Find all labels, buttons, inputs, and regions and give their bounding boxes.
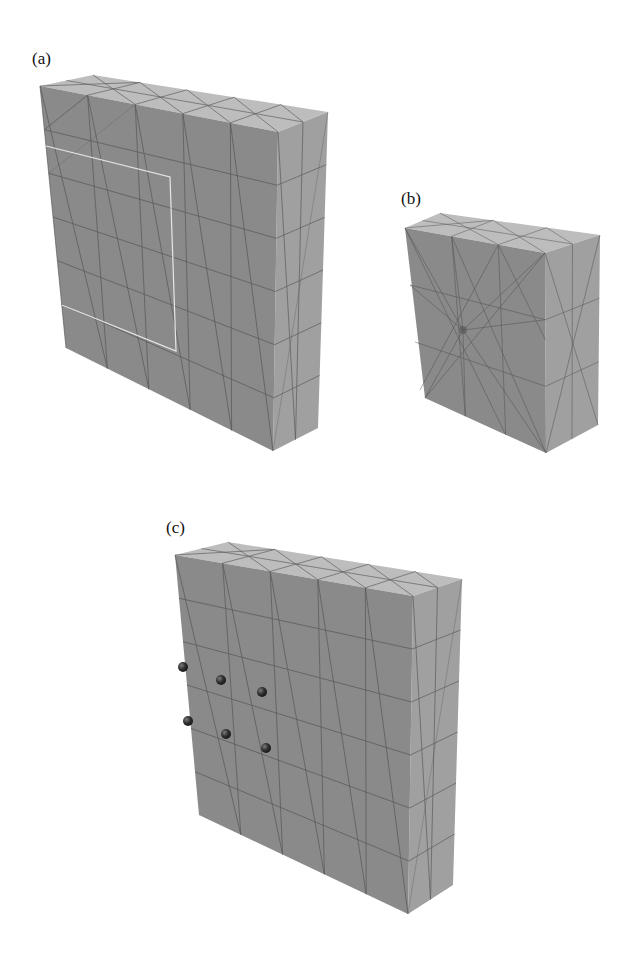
panel-c-block [175,542,462,914]
marker-sphere [178,662,188,672]
marker-sphere [183,716,193,726]
panel-c-front-face [175,555,413,914]
marker-sphere [216,675,226,685]
figure-canvas [0,0,637,953]
marker-sphere [257,687,267,697]
panel-a-block [40,75,328,451]
panel-b-front-face [405,228,546,453]
panel-b-refinement-point [459,326,467,334]
marker-sphere [261,743,271,753]
panel-a-front-face [40,86,278,451]
marker-sphere [221,729,231,739]
panel-b-block [405,213,600,453]
